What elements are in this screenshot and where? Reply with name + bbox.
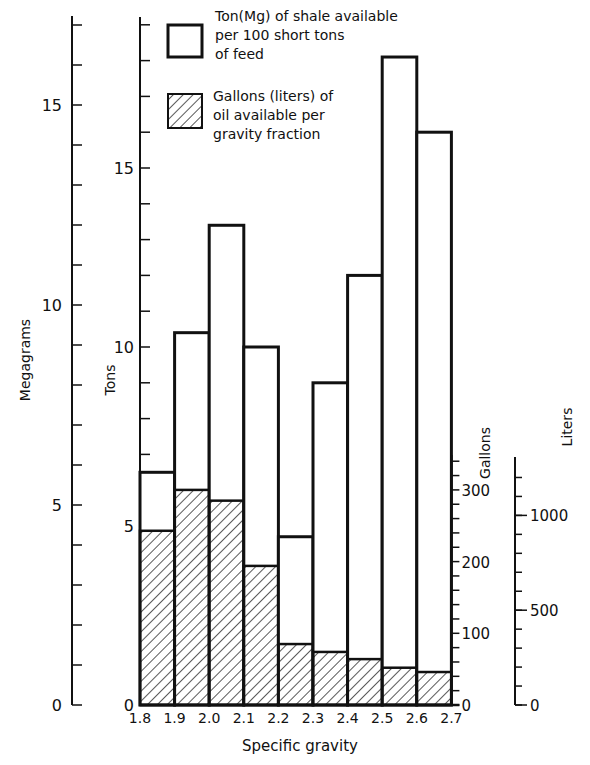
megagrams-tick-label: 10: [42, 296, 62, 315]
liters-tick-label: 500: [530, 602, 559, 620]
megagrams-axis: 051015Megagrams: [17, 16, 82, 715]
legend-hatched-line-3: gravity fraction: [213, 125, 333, 144]
tons-tick-label: 15: [114, 159, 134, 178]
hatched-bar: [140, 531, 175, 705]
x-tick-label: 1.9: [163, 710, 185, 726]
liters-axis-label: Liters: [559, 408, 575, 447]
gallons-axis-label: Gallons: [477, 427, 493, 479]
tons-tick-label: 10: [114, 338, 134, 357]
open-bar: [348, 275, 383, 705]
hatched-bar: [348, 659, 383, 705]
x-tick-label: 2.1: [233, 710, 255, 726]
megagrams-tick-label: 0: [52, 696, 62, 715]
megagrams-axis-label: Megagrams: [17, 319, 33, 401]
legend-open-swatch: [168, 25, 202, 57]
bars: [140, 57, 451, 705]
megagrams-tick-label: 15: [42, 96, 62, 115]
legend-hatched-swatch: [168, 94, 202, 128]
x-tick-label: 2.4: [336, 710, 358, 726]
hatched-bar: [313, 652, 348, 705]
hatched-bar: [244, 566, 279, 705]
x-tick-label: 2.2: [267, 710, 289, 726]
gallons-tick-label: 200: [461, 554, 490, 572]
hatched-bar: [278, 644, 313, 705]
x-axis: 1.81.92.02.12.22.32.42.52.62.7Specific g…: [129, 705, 463, 755]
hatched-bar: [209, 501, 244, 705]
hatched-bar: [417, 672, 452, 705]
x-tick-label: 2.6: [406, 710, 428, 726]
open-bar: [382, 57, 417, 705]
legend-open-line-3: of feed: [215, 45, 398, 64]
liters-tick-label: 1000: [530, 507, 568, 525]
legend-hatched-line-1: Gallons (liters) of: [213, 87, 333, 106]
x-tick-label: 2.5: [371, 710, 393, 726]
gallons-tick-label: 300: [461, 482, 490, 500]
liters-tick-label: 0: [530, 697, 540, 715]
x-tick-label: 2.3: [302, 710, 324, 726]
legend-open-label: Ton(Mg) of shale available per 100 short…: [215, 7, 398, 64]
gallons-axis: 0100200300Gallons: [451, 427, 493, 715]
legend-hatched-label: Gallons (liters) of oil available per gr…: [213, 87, 333, 144]
x-tick-label: 2.7: [440, 710, 462, 726]
legend: [168, 25, 202, 128]
x-axis-label: Specific gravity: [242, 737, 358, 755]
tons-axis-label: Tons: [102, 365, 118, 397]
legend-hatched-line-2: oil available per: [213, 106, 333, 125]
gallons-tick-label: 100: [461, 625, 490, 643]
liters-axis: 05001000Liters: [515, 408, 575, 715]
megagrams-tick-label: 5: [52, 496, 62, 515]
hatched-bar: [382, 668, 417, 705]
legend-open-line-2: per 100 short tons: [215, 26, 398, 45]
hatched-bar: [175, 490, 210, 705]
tons-tick-label: 5: [124, 517, 134, 536]
legend-open-line-1: Ton(Mg) of shale available: [215, 7, 398, 26]
x-tick-label: 1.8: [129, 710, 151, 726]
x-tick-label: 2.0: [198, 710, 220, 726]
open-bar: [417, 132, 452, 705]
gallons-tick-label: 0: [461, 697, 471, 715]
